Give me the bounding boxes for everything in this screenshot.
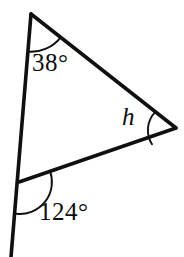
arc-angle-h-icon [148,112,156,145]
angle-label-h: h [122,104,135,129]
angle-label-38: 38° [32,50,69,75]
geometry-figure: 38° 124° h [0,0,184,257]
left-side-extended-line [11,14,31,257]
geometry-canvas [0,0,184,257]
angle-label-124: 124° [39,199,89,224]
lower-right-side-line [19,128,176,182]
